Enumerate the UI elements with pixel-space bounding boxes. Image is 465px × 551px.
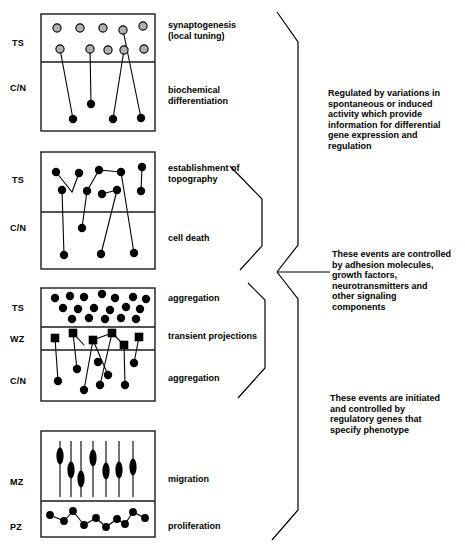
square-cell-marker — [69, 329, 78, 338]
square-cell-marker — [120, 341, 129, 350]
proliferating-cell — [69, 507, 77, 515]
filled-cell-marker — [85, 314, 93, 322]
filled-cell-marker — [95, 166, 103, 174]
connection-line — [55, 338, 58, 381]
note-adhesion-molecules: These events are controlled by adhesion … — [332, 249, 451, 312]
filled-cell-marker — [54, 377, 62, 385]
filled-cell-marker — [69, 115, 77, 123]
connection-line — [93, 340, 108, 375]
filled-cell-marker — [60, 251, 68, 259]
migrating-cell — [77, 471, 84, 488]
brace-upper — [277, 12, 298, 272]
connection-line — [90, 49, 91, 104]
proliferating-cell — [129, 508, 137, 516]
square-cell-marker — [51, 334, 60, 343]
open-cell-marker — [120, 46, 128, 54]
stage-label-aggregation-cn: aggregation — [168, 373, 220, 384]
filled-cell-marker — [78, 224, 86, 232]
migrating-cell — [115, 462, 122, 479]
zone-label-p2-ts: TS — [12, 175, 24, 185]
migrating-cell — [89, 450, 96, 467]
filled-cell-marker — [137, 187, 145, 195]
migrating-cell — [67, 462, 74, 479]
filled-cell-marker — [98, 290, 106, 298]
filled-cell-marker — [51, 294, 59, 302]
brace-lower — [272, 272, 298, 540]
figure-canvas: TS C/N TS C/N TS WZ C/N MZ PZ synaptogen… — [0, 0, 465, 551]
filled-cell-marker — [98, 190, 106, 198]
square-cell-marker — [89, 336, 98, 345]
open-cell-marker — [53, 24, 61, 32]
filled-cell-marker — [80, 293, 88, 301]
open-cell-marker — [56, 45, 64, 53]
filled-cell-marker — [104, 371, 112, 379]
filled-cell-marker — [117, 168, 125, 176]
connection-line — [124, 345, 125, 385]
stage-label-establishment-of-topography: establishment of topography — [168, 163, 240, 184]
filled-cell-marker — [121, 381, 129, 389]
filled-cell-marker — [132, 315, 140, 323]
open-cell-marker — [99, 24, 107, 32]
proliferating-cell — [102, 523, 110, 531]
connection-line — [113, 50, 124, 119]
filled-cell-marker — [66, 292, 74, 300]
filled-cell-marker — [130, 359, 138, 367]
proliferating-cell — [92, 514, 100, 522]
filled-cell-marker — [129, 293, 137, 301]
note-regulatory-genes: These events are initiated and controlle… — [330, 393, 440, 435]
zone-label-p4-mz: MZ — [10, 477, 23, 487]
filled-cell-marker — [137, 114, 145, 122]
filled-cell-marker — [90, 304, 98, 312]
filled-cell-marker — [83, 187, 91, 195]
stage-label-proliferation: proliferation — [168, 521, 221, 532]
filled-cell-marker — [74, 305, 82, 313]
open-cell-marker — [104, 46, 112, 54]
proliferating-cell — [60, 517, 68, 525]
migrating-cell — [129, 459, 136, 476]
open-cell-marker — [140, 45, 148, 53]
connection-line — [82, 191, 87, 228]
zone-label-p2-cn: C/N — [10, 223, 26, 233]
migrating-cell — [56, 448, 63, 465]
stage-label-transient-projections: transient projections — [168, 331, 257, 342]
filled-cell-marker — [58, 186, 66, 194]
stage-label-biochemical-differentiation: biochemical differentiation — [168, 85, 228, 106]
proliferating-cell — [141, 514, 149, 522]
open-cell-marker — [86, 45, 94, 53]
filled-cell-marker — [117, 314, 125, 322]
filled-cell-marker — [87, 100, 95, 108]
stage-label-synaptogenesis: synaptogenesis (local tuning) — [168, 20, 236, 41]
filled-cell-marker — [101, 315, 109, 323]
filled-cell-marker — [59, 304, 67, 312]
filled-cell-marker — [113, 186, 121, 194]
connection-line — [60, 49, 73, 119]
filled-cell-marker — [109, 115, 117, 123]
filled-cell-marker — [68, 315, 76, 323]
zone-label-p4-pz: PZ — [10, 522, 22, 532]
square-cell-marker — [135, 333, 144, 342]
square-cell-marker — [108, 329, 117, 338]
filled-cell-marker — [138, 163, 146, 171]
connection-line — [62, 190, 64, 255]
note-activity-regulation: Regulated by variations in spontaneous o… — [328, 88, 441, 151]
filled-cell-marker — [80, 386, 88, 394]
connection-line — [73, 333, 77, 369]
zone-label-p3-cn: C/N — [10, 376, 26, 386]
filled-cell-marker — [130, 249, 138, 257]
filled-cell-marker — [97, 250, 105, 258]
proliferating-cell — [121, 520, 129, 528]
filled-cell-marker — [73, 365, 81, 373]
stage-label-aggregation-ts: aggregation — [168, 293, 220, 304]
connection-line — [84, 340, 93, 390]
zone-label-p1-ts: TS — [12, 38, 24, 48]
proliferating-cell — [113, 515, 121, 523]
filled-cell-marker — [111, 294, 119, 302]
zone-label-p3-ts: TS — [12, 303, 24, 313]
connection-line — [123, 30, 141, 118]
open-cell-marker — [139, 22, 147, 30]
proliferating-cell — [46, 511, 54, 519]
stage-label-cell-death: cell death — [168, 233, 210, 244]
stage-label-migration: migration — [168, 474, 209, 485]
open-cell-marker — [76, 24, 84, 32]
filled-cell-marker — [52, 168, 60, 176]
